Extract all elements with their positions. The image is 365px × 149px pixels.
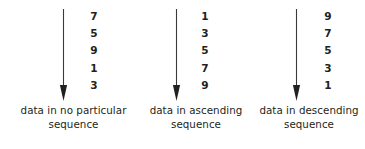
value-item: 5 (315, 42, 341, 59)
sequence-diagram: 7 5 9 1 3 data in no particular sequence… (0, 0, 365, 149)
down-arrow-icon (172, 9, 181, 101)
caption-line-1: data in no particular (8, 104, 139, 118)
value-item: 7 (81, 8, 107, 25)
column-caption: data in no particular sequence (8, 104, 139, 131)
caption-line-2: sequence (8, 118, 139, 132)
value-item: 7 (315, 25, 341, 42)
down-arrow-icon (292, 9, 301, 101)
value-item: 9 (192, 77, 218, 94)
value-list: 1 3 5 7 9 (192, 8, 218, 94)
value-list: 9 7 5 3 1 (315, 8, 341, 94)
value-item: 3 (81, 77, 107, 94)
down-arrow-icon (59, 9, 68, 101)
column-caption: data in ascending sequence (139, 104, 253, 131)
sequence-column-descending: 9 7 5 3 1 data in descending sequence (253, 0, 365, 149)
sequence-column-ascending: 1 3 5 7 9 data in ascending sequence (139, 0, 253, 149)
value-item: 9 (315, 8, 341, 25)
value-item: 9 (81, 42, 107, 59)
caption-line-1: data in descending (253, 104, 365, 118)
value-item: 7 (192, 60, 218, 77)
caption-line-1: data in ascending (139, 104, 253, 118)
value-item: 3 (315, 60, 341, 77)
value-list: 7 5 9 1 3 (81, 8, 107, 94)
value-item: 1 (315, 77, 341, 94)
caption-line-2: sequence (253, 118, 365, 132)
value-item: 1 (192, 8, 218, 25)
caption-line-2: sequence (139, 118, 253, 132)
sequence-column-no-particular: 7 5 9 1 3 data in no particular sequence (8, 0, 139, 149)
value-item: 5 (192, 42, 218, 59)
value-item: 1 (81, 60, 107, 77)
value-item: 3 (192, 25, 218, 42)
value-item: 5 (81, 25, 107, 42)
column-caption: data in descending sequence (253, 104, 365, 131)
